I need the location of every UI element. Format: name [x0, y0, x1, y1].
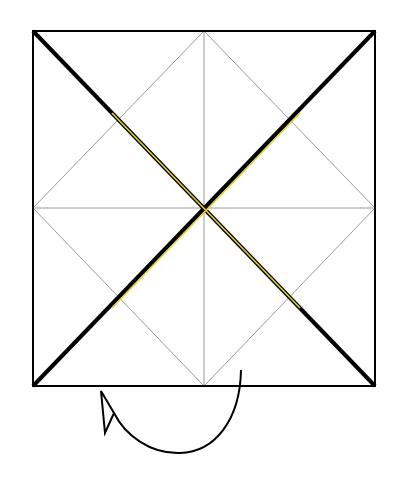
fold-diagram — [0, 0, 399, 489]
turn-over-arrow-icon — [101, 370, 241, 453]
